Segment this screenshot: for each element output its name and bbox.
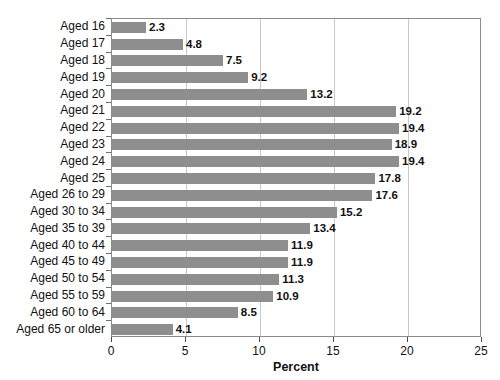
- bar-value-label: 10.9: [276, 289, 298, 303]
- category-label: Aged 16: [0, 19, 105, 33]
- bar-value-label: 2.3: [149, 20, 165, 34]
- bar: [112, 89, 307, 100]
- y-axis-tick: [106, 85, 111, 86]
- bar-value-label: 17.6: [375, 188, 397, 202]
- category-axis-labels: Aged 16Aged 17Aged 18Aged 19Aged 20Aged …: [0, 18, 105, 337]
- bar-value-label: 18.9: [395, 137, 417, 151]
- category-label: Aged 35 to 39: [0, 221, 105, 235]
- y-axis-tick: [106, 169, 111, 170]
- bar-value-label: 11.3: [282, 272, 304, 286]
- bar-value-label: 7.5: [226, 53, 242, 67]
- category-label: Aged 22: [0, 120, 105, 134]
- y-axis-tick: [106, 152, 111, 153]
- y-axis-tick: [106, 287, 111, 288]
- bar-value-label: 19.4: [402, 121, 424, 135]
- bar: [112, 156, 399, 167]
- bar: [112, 223, 310, 234]
- category-label: Aged 30 to 34: [0, 204, 105, 218]
- bar: [112, 307, 238, 318]
- x-axis-tick: [259, 337, 260, 342]
- category-label: Aged 18: [0, 53, 105, 67]
- y-axis-tick: [106, 236, 111, 237]
- bar: [112, 106, 396, 117]
- bar-value-label: 19.4: [402, 154, 424, 168]
- category-label: Aged 24: [0, 154, 105, 168]
- category-label: Aged 55 to 59: [0, 288, 105, 302]
- bar: [112, 274, 279, 285]
- bar-value-label: 19.2: [399, 104, 421, 118]
- y-axis-tick: [106, 253, 111, 254]
- x-axis-tick-label: 10: [239, 344, 279, 358]
- bar: [112, 324, 173, 335]
- x-axis-tick: [333, 337, 334, 342]
- y-axis-tick: [106, 102, 111, 103]
- category-label: Aged 21: [0, 103, 105, 117]
- category-label: Aged 25: [0, 171, 105, 185]
- x-axis-tick-label: 25: [461, 344, 500, 358]
- x-axis-tick: [185, 337, 186, 342]
- bar-value-label: 4.8: [186, 37, 202, 51]
- category-label: Aged 65 or older: [0, 322, 105, 336]
- y-axis-tick: [106, 303, 111, 304]
- y-axis-tick: [106, 203, 111, 204]
- category-label: Aged 26 to 29: [0, 187, 105, 201]
- category-label: Aged 17: [0, 36, 105, 50]
- y-axis-tick: [106, 270, 111, 271]
- bar: [112, 72, 248, 83]
- bar: [112, 190, 372, 201]
- bar-value-label: 4.1: [176, 322, 192, 336]
- bar-value-label: 9.2: [251, 70, 267, 84]
- bar-value-label: 8.5: [241, 305, 257, 319]
- bar: [112, 139, 392, 150]
- y-axis-tick: [106, 35, 111, 36]
- y-axis-tick: [106, 68, 111, 69]
- category-label: Aged 45 to 49: [0, 254, 105, 268]
- x-axis-tick: [111, 337, 112, 342]
- x-axis-title: Percent: [111, 360, 481, 374]
- y-axis-tick: [106, 219, 111, 220]
- bar: [112, 207, 337, 218]
- x-axis-tick: [407, 337, 408, 342]
- y-axis-tick: [106, 320, 111, 321]
- category-label: Aged 20: [0, 87, 105, 101]
- category-label: Aged 50 to 54: [0, 271, 105, 285]
- y-axis-tick: [106, 186, 111, 187]
- x-axis-tick-label: 0: [91, 344, 131, 358]
- category-label: Aged 40 to 44: [0, 238, 105, 252]
- bar: [112, 39, 183, 50]
- bar: [112, 22, 146, 33]
- bar: [112, 55, 223, 66]
- y-axis-tick: [106, 18, 111, 19]
- x-axis-tick-label: 5: [165, 344, 205, 358]
- category-label: Aged 60 to 64: [0, 305, 105, 319]
- bar-value-label: 11.9: [291, 255, 313, 269]
- x-axis-tick-label: 15: [313, 344, 353, 358]
- bar: [112, 123, 399, 134]
- bar-value-label: 11.9: [291, 238, 313, 252]
- y-axis-tick: [106, 52, 111, 53]
- bar: [112, 291, 273, 302]
- bar: [112, 173, 375, 184]
- category-label: Aged 19: [0, 70, 105, 84]
- x-axis-tick-label: 20: [387, 344, 427, 358]
- bar-value-label: 13.2: [310, 87, 332, 101]
- x-axis-tick: [481, 337, 482, 342]
- bar-value-label: 17.8: [378, 171, 400, 185]
- y-axis-tick: [106, 119, 111, 120]
- bar-value-label: 13.4: [313, 221, 335, 235]
- category-label: Aged 23: [0, 137, 105, 151]
- bar-value-label: 15.2: [340, 205, 362, 219]
- bar: [112, 257, 288, 268]
- y-axis-tick: [106, 136, 111, 137]
- bar: [112, 240, 288, 251]
- bar-chart: Aged 16Aged 17Aged 18Aged 19Aged 20Aged …: [0, 0, 500, 380]
- gridline: [408, 19, 409, 336]
